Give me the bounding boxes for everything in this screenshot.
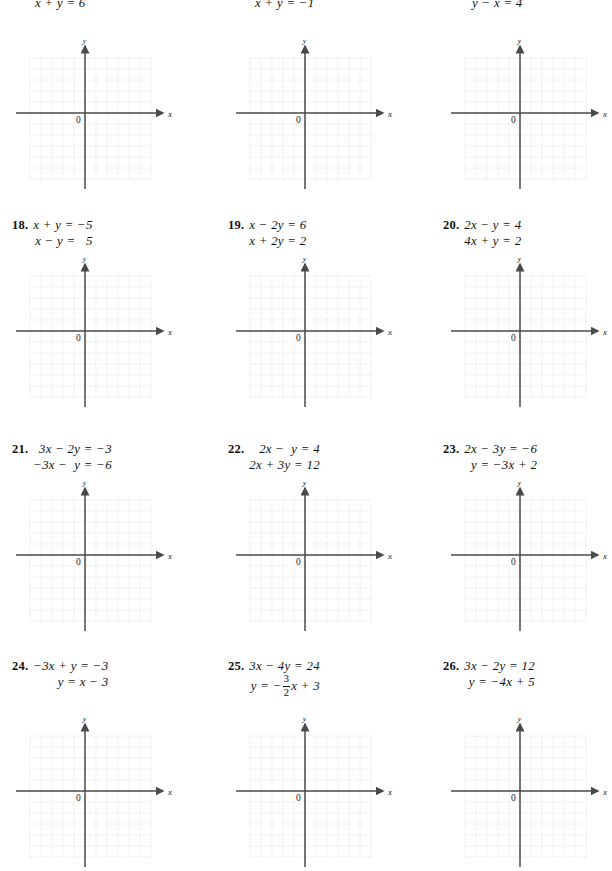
svg-text:0: 0	[296, 793, 301, 803]
problem-19: 19. x − 2y = 6 x + 2y = 2	[228, 218, 306, 249]
problem-25: 25. 3x − 4y = 24 y = − 3 2 x + 3	[228, 659, 320, 699]
problem-24-head: 24. −3x + y = −3 y = x − 3	[12, 659, 108, 690]
graph-25: xy0	[228, 718, 397, 871]
problem-top-2: x + y = −1	[250, 0, 314, 12]
equation: y = −3x + 2	[471, 458, 537, 474]
equation: y = x − 3	[58, 675, 109, 691]
svg-text:y: y	[82, 718, 87, 723]
problem-21-number: 21.	[12, 442, 28, 457]
svg-text:0: 0	[76, 793, 81, 803]
svg-text:x: x	[387, 327, 392, 337]
problem-22-equations: 2x − y = 4 2x + 3y = 12	[249, 442, 320, 473]
problem-21-head: 21. 3x − 2y = −3 −3x − y = −6	[12, 442, 112, 473]
problem-21-equations: 3x − 2y = −3 −3x − y = −6	[33, 442, 112, 473]
problem-24: 24. −3x + y = −3 y = x − 3	[12, 659, 108, 690]
svg-text:0: 0	[511, 115, 516, 125]
svg-text:y: y	[302, 40, 307, 45]
problem-25-head: 25. 3x − 4y = 24 y = − 3 2 x + 3	[228, 659, 320, 699]
problem-25-number: 25.	[228, 659, 244, 674]
problem-23-head: 23. 2x − 3y = −6 y = −3x + 2	[443, 442, 537, 473]
problem-20-number: 20.	[443, 218, 459, 233]
problem-18-equations: x + y = −5 x − y = 5	[33, 218, 92, 249]
svg-text:x: x	[602, 551, 607, 561]
problem-top-2-equations: x + y = −1	[255, 0, 314, 12]
equation: x + y = −5	[33, 218, 92, 234]
fraction: 3 2	[283, 674, 291, 698]
svg-text:y: y	[517, 40, 522, 45]
problem-25-equations: 3x − 4y = 24 y = − 3 2 x + 3	[249, 659, 320, 699]
svg-text:x: x	[167, 787, 172, 797]
equation: y = −4x + 5	[469, 675, 535, 691]
problem-18-head: 18. x + y = −5 x − y = 5	[12, 218, 93, 249]
problem-23-number: 23.	[443, 442, 459, 457]
problem-22-head: 22. 2x − y = 4 2x + 3y = 12	[228, 442, 320, 473]
svg-text:0: 0	[296, 115, 301, 125]
graph-top-3: xy0	[443, 40, 612, 193]
svg-text:x: x	[602, 109, 607, 119]
problem-top-1: x + y = 6	[30, 0, 86, 12]
problem-top-3-equations: y − x = 4	[472, 0, 523, 12]
problem-18: 18. x + y = −5 x − y = 5	[12, 218, 93, 249]
problem-26-equations: 3x − 2y = 12 y = −4x + 5	[464, 659, 535, 690]
equation: 3x − 2y = −3	[39, 442, 112, 458]
fraction-denominator: 2	[283, 688, 291, 699]
svg-text:0: 0	[76, 115, 81, 125]
graph-26: xy0	[443, 718, 612, 871]
equation: x − y = 5	[35, 234, 93, 250]
equation: −3x + y = −3	[33, 659, 108, 675]
problem-21: 21. 3x − 2y = −3 −3x − y = −6	[12, 442, 112, 473]
svg-text:y: y	[302, 258, 307, 263]
svg-text:x: x	[167, 551, 172, 561]
svg-text:x: x	[387, 551, 392, 561]
problem-23-equations: 2x − 3y = −6 y = −3x + 2	[464, 442, 537, 473]
svg-text:x: x	[602, 787, 607, 797]
svg-text:x: x	[387, 787, 392, 797]
svg-text:y: y	[82, 40, 87, 45]
graph-top-1: xy0	[8, 40, 177, 193]
fraction-equation-prefix: y = −	[251, 679, 282, 695]
problem-20: 20. 2x − y = 4 4x + y = 2	[443, 218, 521, 249]
problem-top-1-equations: x + y = 6	[35, 0, 86, 12]
problem-top-3-head: y − x = 4	[467, 0, 523, 12]
svg-text:y: y	[302, 482, 307, 487]
graph-22: xy0	[228, 482, 397, 635]
svg-text:0: 0	[296, 557, 301, 567]
problem-22-number: 22.	[228, 442, 244, 457]
svg-text:x: x	[167, 109, 172, 119]
problem-19-head: 19. x − 2y = 6 x + 2y = 2	[228, 218, 306, 249]
problem-20-head: 20. 2x − y = 4 4x + y = 2	[443, 218, 521, 249]
problem-top-1-head: x + y = 6	[30, 0, 86, 12]
equation: 4x + y = 2	[464, 234, 521, 250]
problem-22: 22. 2x − y = 4 2x + 3y = 12	[228, 442, 320, 473]
graph-24: xy0	[8, 718, 177, 871]
equation: x + y = −1	[255, 0, 314, 12]
equation: 2x + 3y = 12	[249, 458, 320, 474]
graph-19: xy0	[228, 258, 397, 411]
svg-text:y: y	[517, 482, 522, 487]
problem-26-number: 26.	[443, 659, 459, 674]
problem-23: 23. 2x − 3y = −6 y = −3x + 2	[443, 442, 537, 473]
problem-26-head: 26. 3x − 2y = 12 y = −4x + 5	[443, 659, 535, 690]
svg-text:0: 0	[76, 557, 81, 567]
problem-19-equations: x − 2y = 6 x + 2y = 2	[249, 218, 306, 249]
equation: 3x − 2y = 12	[464, 659, 535, 675]
svg-text:0: 0	[511, 557, 516, 567]
svg-text:y: y	[82, 258, 87, 263]
equation: 2x − 3y = −6	[464, 442, 537, 458]
svg-text:0: 0	[511, 793, 516, 803]
graph-18: xy0	[8, 258, 177, 411]
equation: x + y = 6	[35, 0, 86, 12]
problem-20-equations: 2x − y = 4 4x + y = 2	[464, 218, 521, 249]
equation: 2x − y = 4	[259, 442, 320, 458]
svg-text:y: y	[82, 482, 87, 487]
svg-text:x: x	[167, 327, 172, 337]
svg-text:y: y	[302, 718, 307, 723]
equation: −3x − y = −6	[33, 458, 112, 474]
equation: 2x − y = 4	[464, 218, 521, 234]
graph-23: xy0	[443, 482, 612, 635]
problem-24-number: 24.	[12, 659, 28, 674]
problem-19-number: 19.	[228, 218, 244, 233]
fraction-equation-suffix: x + 3	[291, 679, 320, 695]
equation-with-fraction: y = − 3 2 x + 3	[251, 675, 320, 699]
